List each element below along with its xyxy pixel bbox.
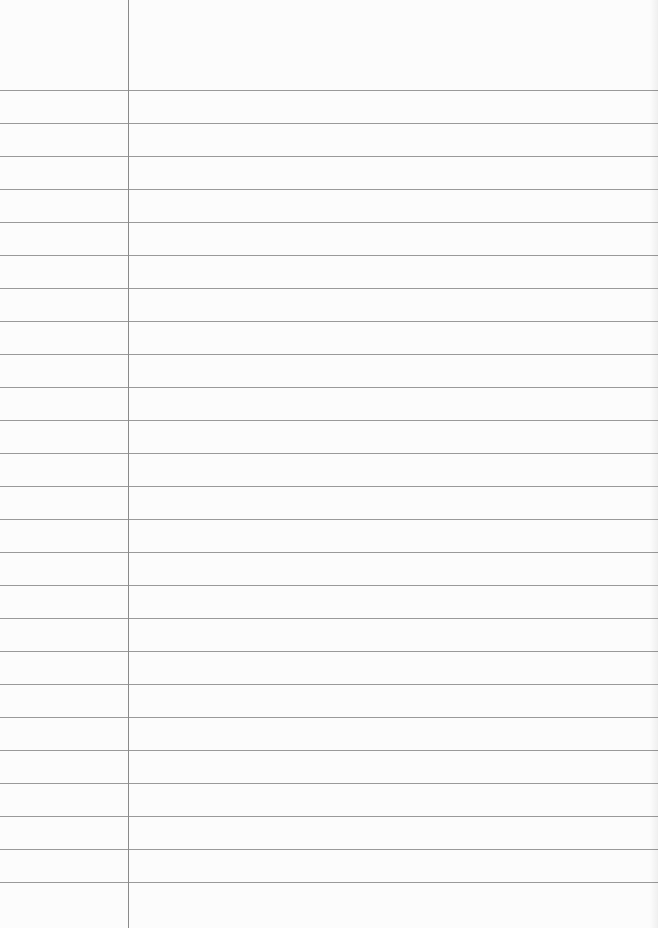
ruled-line [0,585,658,586]
ruled-line [0,882,658,883]
ruled-line [0,486,658,487]
ruled-line [0,288,658,289]
ruled-line [0,387,658,388]
ruled-line [0,420,658,421]
lined-paper-page [0,0,658,928]
ruled-line [0,552,658,553]
ruled-line [0,849,658,850]
ruled-line [0,90,658,91]
ruled-line [0,750,658,751]
margin-line [128,0,129,928]
ruled-line [0,189,658,190]
ruled-line [0,255,658,256]
page-edge-shadow [650,0,658,928]
ruled-line [0,651,658,652]
ruled-line [0,783,658,784]
ruled-line [0,717,658,718]
ruled-line [0,354,658,355]
ruled-line [0,453,658,454]
ruled-line [0,618,658,619]
ruled-line [0,156,658,157]
ruled-line [0,123,658,124]
ruled-line [0,222,658,223]
ruled-line [0,684,658,685]
ruled-line [0,816,658,817]
ruled-line [0,519,658,520]
ruled-line [0,321,658,322]
